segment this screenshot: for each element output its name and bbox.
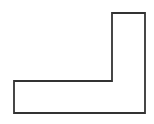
figure-canvas — [0, 0, 154, 124]
l-shape-diagram — [0, 0, 154, 124]
